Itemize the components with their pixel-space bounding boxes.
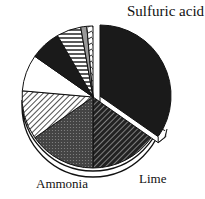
pie-chart: Sulfuric acid Lime Ammonia bbox=[0, 0, 205, 199]
pie-chart-graphic bbox=[0, 0, 205, 199]
label-lime: Lime bbox=[139, 171, 166, 187]
label-ammonia: Ammonia bbox=[36, 176, 88, 192]
label-sulfuric-acid: Sulfuric acid bbox=[127, 3, 204, 20]
